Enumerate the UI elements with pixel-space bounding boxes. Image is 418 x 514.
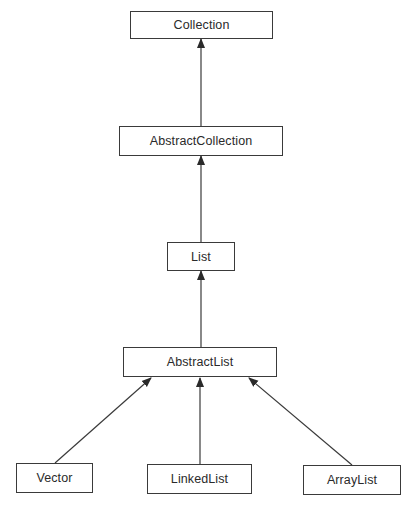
node-label: LinkedList: [171, 472, 228, 486]
node-label: AbstractList: [167, 355, 234, 369]
node-arraylist: ArrayList: [303, 465, 401, 495]
node-label: Collection: [174, 18, 230, 32]
node-vector: Vector: [16, 463, 93, 493]
class-hierarchy-diagram: Collection AbstractCollection List Abstr…: [0, 0, 418, 514]
node-collection: Collection: [130, 11, 273, 39]
node-linkedlist: LinkedList: [147, 464, 252, 494]
edge-arraylist-to-abstractlist: [249, 378, 352, 465]
node-label: AbstractCollection: [150, 134, 253, 148]
node-label: List: [191, 250, 211, 264]
node-abstractcollection: AbstractCollection: [119, 126, 283, 156]
node-list: List: [167, 242, 235, 271]
node-label: ArrayList: [327, 473, 377, 487]
edge-vector-to-abstractlist: [55, 378, 151, 463]
node-abstractlist: AbstractList: [123, 347, 277, 377]
node-label: Vector: [36, 471, 72, 485]
